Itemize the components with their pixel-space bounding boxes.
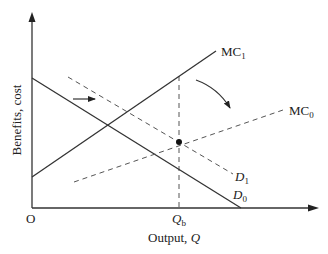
d0-curve bbox=[32, 78, 241, 208]
d1-curve bbox=[68, 77, 233, 174]
mc0-label: MC0 bbox=[289, 103, 314, 120]
x-axis-arrow-icon bbox=[308, 205, 319, 212]
economics-diagram: MC1 MC0 D1 D0 O Qb Output, Q Benefits, c… bbox=[0, 0, 328, 254]
mc1-label: MC1 bbox=[221, 44, 246, 61]
mc0-curve bbox=[74, 110, 283, 182]
equilibrium-point bbox=[176, 139, 182, 145]
d1-label: D1 bbox=[234, 169, 249, 186]
y-axis-arrow-icon bbox=[29, 12, 36, 22]
qb-tick-label: Qb bbox=[172, 211, 186, 228]
mc1-curve bbox=[32, 51, 216, 177]
y-axis-label: Benefits, cost bbox=[9, 84, 24, 155]
d0-label: D0 bbox=[232, 187, 247, 204]
origin-label: O bbox=[26, 211, 35, 226]
mc-shift-curved-arrow-icon bbox=[196, 80, 230, 108]
y-axis bbox=[29, 12, 36, 208]
x-axis-label: Output, Q bbox=[148, 230, 201, 245]
